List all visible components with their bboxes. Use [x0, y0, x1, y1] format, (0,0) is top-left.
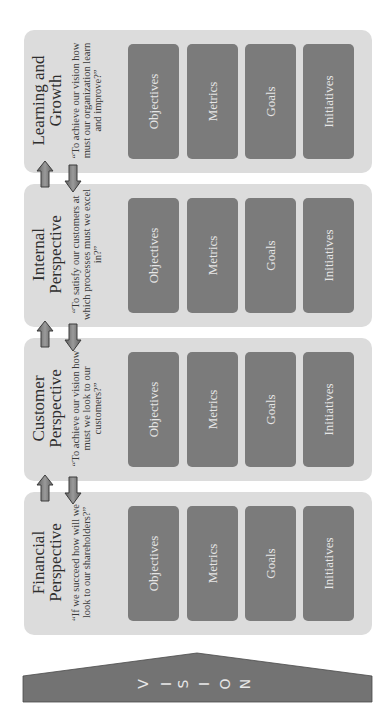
vision-letter: V — [136, 677, 150, 691]
vision-letter: I — [197, 677, 211, 691]
vision-letter: I — [159, 677, 173, 691]
vision-letter: N — [238, 677, 252, 691]
vision-shape — [0, 0, 390, 723]
vision-letter: O — [218, 677, 232, 691]
vision-letter: S — [176, 677, 190, 691]
